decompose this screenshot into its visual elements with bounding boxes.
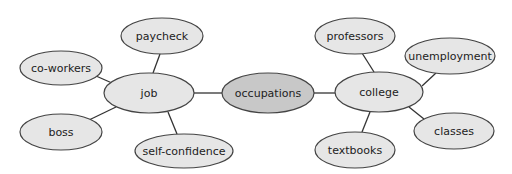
node-label: job [140,87,158,100]
concept-web-diagram: occupationsjobpaycheckco-workersbossself… [0,0,512,174]
node-label: boss [48,126,73,139]
node-co-workers: co-workers [20,51,102,85]
edge-college-textbooks [362,112,370,132]
node-label: textbooks [328,144,383,157]
edge-college-professors [362,53,374,72]
node-self-confidence: self-confidence [135,134,233,168]
node-college: college [335,72,423,112]
node-label: co-workers [31,62,91,75]
edge-job-co-workers [96,76,112,83]
node-occupations: occupations [222,73,314,113]
node-label: self-confidence [142,145,225,158]
node-label: professors [326,30,383,43]
node-paycheck: paycheck [121,18,203,54]
node-job: job [104,73,194,113]
node-label: classes [434,125,474,138]
node-unemployment: unemployment [405,38,495,74]
edge-job-boss [89,107,116,120]
edge-college-classes [409,107,424,119]
nodes: occupationsjobpaycheckco-workersbossself… [20,18,495,168]
node-label: occupations [235,87,302,100]
node-label: paycheck [136,30,189,43]
edge-job-paycheck [153,54,160,73]
node-label: college [359,86,399,99]
node-classes: classes [414,113,494,149]
edge-college-unemployment [422,73,436,86]
edge-job-self-confidence [168,112,177,134]
node-boss: boss [20,114,102,150]
node-textbooks: textbooks [315,132,395,168]
node-professors: professors [315,18,395,54]
node-label: unemployment [408,50,492,63]
